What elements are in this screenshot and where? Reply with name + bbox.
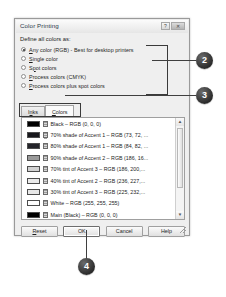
list-item-label: 70% shade of Accent 1 – RGB (73, 72, ... (51, 132, 149, 138)
radio-indicator[interactable] (21, 56, 26, 61)
callout-leader-line-3 (65, 95, 196, 96)
list-item[interactable]: 70% shade of Accent 1 – RGB (73, 72, ... (22, 129, 175, 140)
list-item-label: 90% shade of Accent 2 – RGB (186, 16... (51, 155, 149, 161)
screenshot-canvas: Color Printing ? ✕ Define all colors as:… (0, 0, 226, 297)
dialog-title: Color Printing (20, 22, 59, 29)
color-swatch (27, 155, 40, 161)
colors-list[interactable]: Black – RGB (0, 0, 0) 70% shade of Accen… (21, 117, 185, 220)
list-item-label: 70% tint of Accent 3 – RGB (186, 200,... (51, 166, 146, 172)
color-swatch (27, 121, 40, 127)
define-colors-label: Define all colors as: (20, 36, 71, 42)
radio-indicator[interactable] (21, 74, 26, 79)
list-item[interactable]: 90% shade of Accent 2 – RGB (186, 16... (22, 152, 175, 163)
color-swatch (27, 166, 40, 172)
callout-marker-2: 2 (196, 52, 213, 69)
list-item-label: 40% tint of Accent 2 – RGB (236, 227,... (51, 178, 146, 184)
tab-inks[interactable]: Inks (21, 106, 45, 116)
list-item[interactable]: 40% tint of Accent 2 – RGB (236, 227,... (22, 175, 175, 186)
titlebar-button-group: ? ✕ (161, 22, 185, 30)
tabstrip: Inks Colors (21, 105, 74, 116)
dialog-titlebar: Color Printing ? ✕ (16, 20, 188, 34)
list-item[interactable]: 30% tint of Accent 3 – RGB (225, 232,... (22, 186, 175, 197)
page-top-margin (0, 0, 226, 8)
colors-list-viewport: Black – RGB (0, 0, 0) 70% shade of Accen… (22, 118, 175, 219)
list-item-label: 80% shade of Accent 1 – RGB (84, 82, ... (51, 143, 149, 149)
list-item[interactable]: 70% tint of Accent 3 – RGB (186, 200,... (22, 164, 175, 175)
color-swatch (27, 200, 40, 206)
list-item-label: Black – RGB (0, 0, 0) (51, 121, 101, 127)
color-swatch (27, 189, 40, 195)
scroll-down-icon[interactable]: ▼ (176, 211, 184, 219)
callout-marker-4: 4 (78, 258, 95, 275)
help-button[interactable]: ? (161, 22, 170, 30)
radio-label: Process colors (CMYK) (29, 74, 86, 80)
list-item[interactable]: Main (Black) – RGB (0, 0, 0) (22, 209, 175, 219)
list-item[interactable]: White – RGB (255, 255, 255) (22, 198, 175, 209)
reset-button[interactable]: Reset (21, 226, 58, 237)
radio-label: Any color (RGB) - Best for desktop print… (29, 47, 134, 53)
color-swatch (27, 143, 40, 149)
color-swatch (27, 132, 40, 138)
ink-grid-icon (43, 121, 48, 127)
list-scrollbar[interactable]: ▲ ▼ (175, 118, 184, 219)
ink-grid-icon (43, 189, 48, 195)
color-swatch (27, 178, 40, 184)
ink-grid-icon (43, 132, 48, 138)
color-swatch (27, 212, 40, 218)
callout-leader-line-2 (152, 60, 196, 61)
radio-label: Spot colors (29, 65, 57, 71)
callout-leader-line-4 (86, 230, 87, 259)
radio-indicator[interactable] (21, 83, 26, 88)
ink-grid-icon (43, 166, 48, 172)
radio-indicator[interactable] (21, 47, 26, 52)
ok-button[interactable]: OK (63, 226, 100, 237)
radio-label: Process colors plus spot colors (29, 83, 105, 89)
dialog-body: Define all colors as: Any color (RGB) - … (16, 33, 188, 234)
annotation-bracket-radio-group (146, 45, 168, 95)
color-printing-dialog: Color Printing ? ✕ Define all colors as:… (14, 18, 190, 236)
cancel-button[interactable]: Cancel (106, 226, 143, 237)
list-item-label: White – RGB (255, 255, 255) (51, 200, 120, 206)
callout-marker-3: 3 (196, 87, 213, 104)
dialog-button-row: Reset OK Cancel Help (21, 226, 185, 237)
ink-grid-icon (43, 155, 48, 161)
list-item-label: Main (Black) – RGB (0, 0, 0) (51, 212, 118, 218)
ink-grid-icon (43, 178, 48, 184)
close-icon[interactable]: ✕ (171, 22, 185, 30)
radio-indicator[interactable] (21, 65, 26, 70)
ink-grid-icon (43, 200, 48, 206)
list-item[interactable]: 80% shade of Accent 1 – RGB (84, 82, ... (22, 141, 175, 152)
list-item[interactable]: Black – RGB (0, 0, 0) (22, 118, 175, 129)
resize-grip[interactable] (180, 227, 186, 233)
radio-label: Single color (29, 56, 58, 62)
scrollbar-thumb[interactable] (177, 128, 183, 188)
ink-grid-icon (43, 143, 48, 149)
list-item-label: 30% tint of Accent 3 – RGB (225, 232,... (51, 189, 146, 195)
scroll-up-icon[interactable]: ▲ (176, 118, 184, 126)
tab-colors[interactable]: Colors (45, 105, 75, 116)
ink-grid-icon (43, 212, 48, 218)
